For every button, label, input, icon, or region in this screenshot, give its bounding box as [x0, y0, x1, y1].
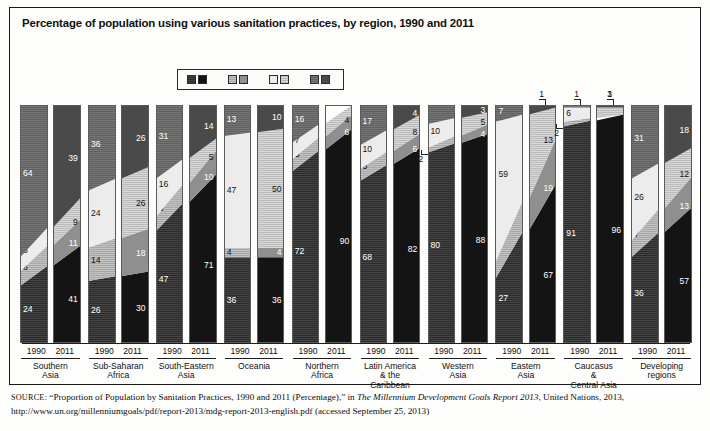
legend-swatch-open-2011	[321, 75, 330, 84]
region-name-caucasus-central-asia-line2: Central Asia	[563, 381, 624, 391]
value-label-unimproved-sub-saharan-africa-2011: 26	[136, 199, 146, 208]
legend-swatch-pair-open	[310, 75, 330, 84]
year-labels-caucasus-central-asia: 19902011	[563, 346, 624, 356]
year-labels-oceania: 19902011	[224, 346, 285, 356]
year-label-developing-regions-2011: 2011	[667, 346, 685, 356]
year-labels-sub-saharan-africa: 19902011	[88, 346, 149, 356]
callout-shared-caucasus-central-asia-1990: 2	[554, 128, 559, 138]
value-label-unimproved-eastern-asia-1990: 59	[498, 170, 508, 179]
value-label-open-oceania-2011: 10	[272, 113, 282, 122]
bar-sub-saharan-africa-2011: 30182626	[121, 105, 149, 343]
year-labels-latin-america-the-caribbean: 19902011	[360, 346, 421, 356]
value-label-improved-south-eastern-asia-1990: 47	[159, 275, 169, 284]
value-label-improved-latin-america-the-caribbean-1990: 68	[363, 253, 373, 262]
chart-legend	[177, 69, 344, 90]
year-labels-eastern-asia: 19902011	[495, 346, 556, 356]
region-name-latin-america-the-caribbean-line2: Caribbean	[360, 381, 421, 391]
value-label-open-oceania-1990: 13	[227, 115, 237, 124]
bar-western-asia-2011: 88453	[461, 105, 489, 343]
value-label-open-developing-regions-1990: 31	[634, 134, 644, 143]
legend-swatch-shared-2011	[239, 75, 248, 84]
value-label-open-southern-asia-2011: 39	[68, 154, 78, 163]
value-label-open-developing-regions-2011: 18	[679, 126, 689, 135]
value-label-open-sub-saharan-africa-1990: 36	[91, 140, 101, 149]
value-label-shared-developing-regions-2011: 13	[679, 202, 689, 211]
x-label-group-eastern-asia: 19902011EasternAsia	[495, 346, 556, 381]
value-label-shared-northern-africa-2011: 6	[345, 128, 350, 137]
year-labels-western-asia: 19902011	[428, 346, 489, 356]
year-label-southern-asia-2011: 2011	[55, 346, 73, 356]
group-rule-northern-africa	[293, 358, 352, 359]
region-name-western-asia-line1: Asia	[428, 371, 489, 381]
legend-swatch-unimproved-1990	[269, 75, 278, 84]
figure-page: Percentage of population using various s…	[0, 0, 710, 431]
source-note: SOURCE: “Proportion of Population by San…	[11, 391, 701, 417]
year-label-eastern-asia-2011: 2011	[531, 346, 549, 356]
bar-eastern-asia-1990: 277597	[495, 105, 523, 343]
group-rule-sub-saharan-africa	[89, 358, 148, 359]
value-label-shared-oceania-2011: 4	[277, 248, 282, 257]
bar-developing-regions-2011: 57131218	[664, 105, 692, 343]
region-name-southern-asia-line1: Asia	[20, 371, 81, 381]
value-label-improved-caucasus-central-asia-2011: 96	[612, 226, 622, 235]
value-label-improved-southern-asia-1990: 24	[23, 305, 33, 314]
region-group-caucasus-central-asia: 916219631	[563, 105, 624, 343]
bar-southern-asia-2011: 4111939	[53, 105, 81, 343]
source-publication: The Millennium Development Goals Report …	[357, 392, 538, 402]
value-label-open-south-eastern-asia-2011: 14	[204, 122, 214, 131]
value-label-improved-western-asia-2011: 88	[476, 236, 486, 245]
value-label-unimproved-oceania-2011: 50	[272, 185, 282, 194]
year-label-oceania-2011: 2011	[259, 346, 277, 356]
x-label-group-western-asia: 19902011WesternAsia	[428, 346, 489, 381]
callout-open-eastern-asia-2011: 1	[539, 89, 544, 99]
value-label-shared-latin-america-the-caribbean-2011: 6	[413, 145, 418, 154]
region-group-northern-africa: 7257169064	[292, 105, 353, 343]
legend-swatch-unimproved-2011	[280, 75, 289, 84]
callout-leader-open-eastern-asia-2011	[539, 99, 546, 105]
value-label-improved-developing-regions-1990: 36	[634, 289, 644, 298]
region-group-western-asia: 8010288453	[428, 105, 489, 343]
chart-frame: Percentage of population using various s…	[9, 7, 701, 385]
year-label-western-asia-1990: 1990	[434, 346, 453, 356]
year-label-south-eastern-asia-1990: 1990	[163, 346, 182, 356]
value-label-improved-eastern-asia-2011: 67	[544, 271, 554, 280]
region-group-latin-america-the-caribbean: 685101782684	[360, 105, 421, 343]
bar-latin-america-the-caribbean-2011: 82684	[393, 105, 421, 343]
source-text-1: : “Proportion of Population by Sanitatio…	[45, 392, 357, 402]
bar-eastern-asia-2011: 671913	[529, 105, 557, 343]
value-label-open-northern-africa-1990: 16	[295, 115, 305, 124]
segment-improved-caucasus-central-asia-2011	[596, 105, 624, 343]
value-label-unimproved-developing-regions-1990: 26	[634, 193, 644, 202]
legend-swatch-shared-1990	[228, 75, 237, 84]
bar-south-eastern-asia-1990: 4761631	[156, 105, 184, 343]
bar-developing-regions-1990: 3672631	[631, 105, 659, 343]
region-group-southern-asia: 2466644111939	[20, 105, 81, 343]
bar-southern-asia-1990: 246664	[20, 105, 48, 343]
group-rule-caucasus-central-asia	[564, 358, 623, 359]
year-label-caucasus-central-asia-2011: 2011	[599, 346, 617, 356]
callout-open-caucasus-central-asia-1990: 1	[574, 89, 579, 99]
bar-oceania-1990: 3644713	[224, 105, 252, 343]
value-label-improved-caucasus-central-asia-1990: 91	[566, 229, 576, 238]
value-label-shared-southern-asia-2011: 11	[69, 239, 78, 248]
year-labels-northern-africa: 19902011	[292, 346, 353, 356]
year-label-latin-america-the-caribbean-2011: 2011	[395, 346, 413, 356]
value-label-open-latin-america-the-caribbean-2011: 4	[413, 109, 418, 118]
value-label-open-eastern-asia-1990: 7	[498, 107, 503, 116]
region-name-oceania-line0: Oceania	[224, 362, 285, 372]
value-label-improved-eastern-asia-1990: 27	[498, 294, 508, 303]
year-label-northern-africa-1990: 1990	[298, 346, 317, 356]
x-label-group-latin-america-the-caribbean: 19902011Latin America& theCaribbean	[360, 346, 421, 391]
value-label-open-latin-america-the-caribbean-1990: 17	[363, 117, 373, 126]
value-label-shared-south-eastern-asia-2011: 10	[204, 173, 214, 182]
value-label-unimproved-western-asia-1990: 10	[431, 127, 441, 136]
year-label-sub-saharan-africa-1990: 1990	[95, 346, 114, 356]
year-label-oceania-1990: 1990	[231, 346, 250, 356]
legend-item-unimproved	[269, 75, 293, 84]
year-label-sub-saharan-africa-2011: 2011	[123, 346, 141, 356]
value-label-unimproved-latin-america-the-caribbean-1990: 10	[363, 145, 373, 154]
region-name-eastern-asia-line1: Asia	[495, 371, 556, 381]
bar-south-eastern-asia-2011: 7110514	[189, 105, 217, 343]
value-label-improved-northern-africa-2011: 90	[340, 237, 350, 246]
chart-title: Percentage of population using various s…	[22, 17, 474, 29]
